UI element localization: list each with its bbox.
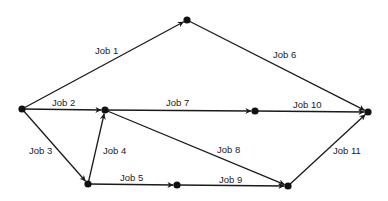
node-g <box>173 181 180 188</box>
edge-job-2 <box>22 109 101 110</box>
edge-label: Job 9 <box>219 174 242 185</box>
edge-label: Job 11 <box>333 145 361 156</box>
edge-job-9 <box>177 185 284 186</box>
edge-label: Job 5 <box>120 172 143 183</box>
edge-label: Job 6 <box>273 49 296 60</box>
edge-job-5 <box>88 184 173 185</box>
activity-network-diagram: Job 1Job 2Job 3Job 4Job 5Job 6Job 7Job 8… <box>0 0 388 201</box>
edge-label: Job 7 <box>166 97 189 108</box>
edge-job-7 <box>105 110 251 111</box>
node-f <box>84 180 91 187</box>
node-b <box>183 16 190 23</box>
node-a <box>18 105 25 112</box>
edge-job-1 <box>22 22 184 109</box>
node-c <box>101 106 108 113</box>
edge-job-10 <box>255 111 364 112</box>
edge-label: Job 1 <box>95 45 118 56</box>
edge-label: Job 8 <box>217 144 240 155</box>
node-e <box>364 108 371 115</box>
node-h <box>284 182 291 189</box>
node-d <box>251 107 258 114</box>
edge-label: Job 10 <box>293 99 322 110</box>
edge-label: Job 2 <box>52 97 75 108</box>
edge-job-4 <box>88 114 104 185</box>
edge-label: Job 3 <box>29 145 52 156</box>
edge-label: Job 4 <box>103 145 126 156</box>
edge-job-6 <box>187 20 365 110</box>
